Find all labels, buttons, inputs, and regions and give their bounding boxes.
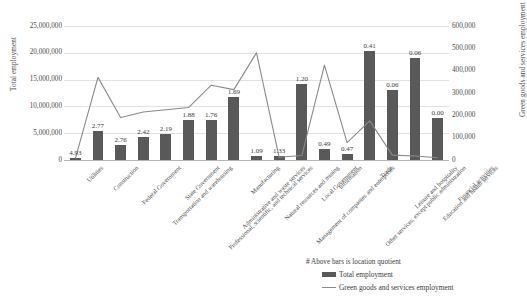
bar bbox=[183, 120, 194, 160]
bar bbox=[364, 51, 375, 160]
x-axis-label: Utilities bbox=[85, 164, 104, 183]
bar bbox=[228, 97, 239, 160]
y-tick-right: 500,000 bbox=[452, 44, 492, 52]
bar bbox=[274, 156, 285, 160]
chart-note: # Above bars is location quotient bbox=[306, 258, 401, 266]
bar bbox=[319, 149, 330, 160]
bar bbox=[432, 118, 443, 160]
bar bbox=[251, 156, 262, 160]
y-tick-left: 25,000,000 bbox=[10, 22, 62, 30]
x-axis-label: Federal Government bbox=[140, 164, 182, 206]
bar bbox=[93, 131, 104, 160]
bar-value-label: 0.41 bbox=[356, 42, 384, 50]
y-tick-left: 15,000,000 bbox=[10, 75, 62, 83]
x-axis-label: Leisure and hospitality bbox=[413, 164, 459, 210]
legend-item-total-employment: Total employment bbox=[322, 270, 393, 279]
bar bbox=[387, 90, 398, 160]
bar-value-label: 1.76 bbox=[197, 111, 225, 119]
legend-bar-swatch bbox=[322, 272, 336, 277]
legend-item-green-goods: Green goods and services employment bbox=[322, 283, 454, 292]
y-tick-right: 100,000 bbox=[452, 133, 492, 141]
y-tick-right: 600,000 bbox=[452, 22, 492, 30]
x-axis-label: Construction bbox=[112, 164, 140, 192]
bar bbox=[70, 158, 81, 160]
legend-label-total-employment: Total employment bbox=[339, 270, 393, 279]
x-axis-label: Transportation and warehousing bbox=[171, 164, 233, 226]
y-tick-right: 200,000 bbox=[452, 111, 492, 119]
bar-value-label: 1.20 bbox=[288, 75, 316, 83]
bar bbox=[160, 134, 171, 160]
y-tick-right: 400,000 bbox=[452, 66, 492, 74]
y-axis-left-title: Total employment bbox=[10, 24, 18, 104]
gridline bbox=[64, 53, 449, 54]
y-tick-right: 0 bbox=[452, 156, 492, 164]
bar-value-label: 0.06 bbox=[401, 49, 429, 57]
y-tick-left: 20,000,000 bbox=[10, 48, 62, 56]
gridline bbox=[64, 26, 449, 27]
bar-value-label: 4.93 bbox=[61, 149, 89, 157]
bar bbox=[296, 84, 307, 160]
bar-value-label: 0.06 bbox=[378, 81, 406, 89]
legend-line-swatch bbox=[322, 287, 336, 288]
bar-value-label: 1.33 bbox=[265, 147, 293, 155]
bar-value-label: 2.77 bbox=[84, 122, 112, 130]
y-tick-right: 300,000 bbox=[452, 89, 492, 97]
y-tick-left: 5,000,000 bbox=[10, 129, 62, 137]
bar bbox=[115, 145, 126, 160]
y-tick-left: 10,000,000 bbox=[10, 102, 62, 110]
bar bbox=[410, 58, 421, 160]
bar-value-label: 0.00 bbox=[424, 109, 452, 117]
bar bbox=[138, 137, 149, 160]
bar bbox=[342, 154, 353, 160]
bar-value-label: 0.47 bbox=[333, 145, 361, 153]
bar-value-label: 1.69 bbox=[220, 88, 248, 96]
bar bbox=[206, 120, 217, 160]
y-axis-right-title: Green goods and services employment bbox=[519, 7, 527, 117]
x-axis-line bbox=[64, 160, 449, 161]
bar-value-label: 2.76 bbox=[107, 136, 135, 144]
bar-value-label: 2.19 bbox=[152, 125, 180, 133]
y-tick-left: 0 bbox=[10, 156, 62, 164]
legend-label-green-goods: Green goods and services employment bbox=[339, 283, 454, 292]
